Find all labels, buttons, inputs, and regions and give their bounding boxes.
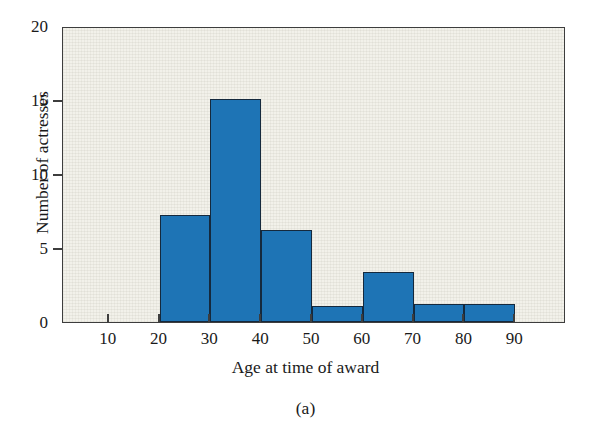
- histogram-bar: [210, 99, 261, 322]
- x-axis-tick-label: 10: [88, 330, 128, 348]
- x-axis-tick: [107, 314, 109, 323]
- x-axis-tick-label: 70: [393, 330, 433, 348]
- x-axis-tick-label: 80: [443, 330, 483, 348]
- x-axis-tick-label: 60: [342, 330, 382, 348]
- y-axis-tick: [53, 174, 62, 176]
- x-axis-tick-label: 30: [189, 330, 229, 348]
- x-axis-tick-label: 90: [494, 330, 534, 348]
- histogram-bar: [160, 215, 211, 322]
- histogram-figure: Number of actresses 05101520 10203040506…: [0, 0, 611, 431]
- x-axis-tick-label: 40: [240, 330, 280, 348]
- y-axis-tick-label: 20: [0, 18, 48, 35]
- y-axis-tick-label: 0: [0, 314, 48, 331]
- histogram-bar: [261, 230, 312, 322]
- histogram-bar: [414, 304, 465, 322]
- plot-area: [62, 27, 565, 323]
- histogram-bar: [363, 272, 414, 322]
- x-axis-title: Age at time of award: [0, 357, 611, 378]
- y-axis-tick-label: 5: [0, 240, 48, 257]
- y-axis-tick: [53, 248, 62, 250]
- x-axis-tick: [412, 314, 414, 323]
- x-axis-tick: [361, 314, 363, 323]
- y-axis-tick-label: 15: [0, 92, 48, 109]
- y-axis-tick-label: 10: [0, 166, 48, 183]
- x-axis-tick: [208, 314, 210, 323]
- y-axis-tick: [53, 100, 62, 102]
- x-axis-tick: [513, 314, 515, 323]
- clipped-header-text: [0, 0, 611, 8]
- x-axis-tick: [259, 314, 261, 323]
- histogram-bar: [464, 304, 515, 322]
- x-axis-tick-label: 50: [291, 330, 331, 348]
- x-axis-tick: [158, 314, 160, 323]
- histogram-bar: [312, 306, 363, 322]
- figure-caption: (a): [0, 398, 611, 419]
- x-axis-tick-label: 20: [139, 330, 179, 348]
- x-axis-tick: [462, 314, 464, 323]
- plot-background-texture: [63, 28, 564, 322]
- x-axis-tick: [310, 314, 312, 323]
